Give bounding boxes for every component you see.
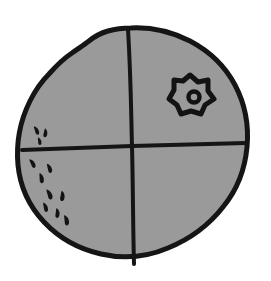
- quadrant-circle-diagram: Quadrant diagram of a shaded circular re…: [0, 0, 271, 281]
- figure-canvas: Quadrant diagram of a shaded circular re…: [0, 0, 271, 281]
- star-lesion-center-dot: [189, 92, 200, 103]
